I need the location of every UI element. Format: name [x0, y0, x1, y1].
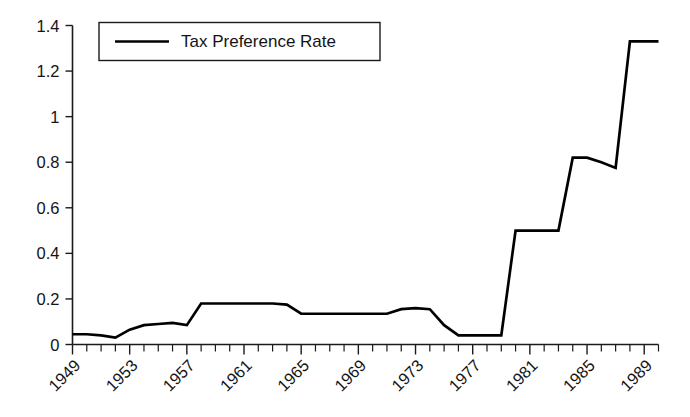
x-tick-label: 1981 — [502, 356, 541, 395]
y-tick-label: 0 — [50, 336, 59, 354]
data-series-group — [73, 41, 659, 337]
x-tick-label: 1965 — [274, 356, 313, 395]
y-tick-label: 0.6 — [37, 199, 60, 217]
chart-legend: Tax Preference Rate — [99, 23, 380, 61]
y-tick-label: 1.4 — [37, 17, 60, 35]
x-axis: 1949195319571961196519691973197719811985… — [45, 345, 659, 395]
chart-container: 00.20.40.60.811.21.4 1949195319571961196… — [0, 0, 690, 417]
legend-label: Tax Preference Rate — [181, 32, 336, 51]
x-tick-label: 1953 — [102, 356, 141, 395]
y-tick-label: 0.4 — [37, 244, 60, 262]
x-tick-label: 1961 — [216, 356, 255, 395]
series-line-tax-preference-rate — [73, 41, 659, 337]
x-tick-label: 1949 — [45, 356, 84, 395]
x-tick-label: 1977 — [445, 356, 484, 395]
line-chart: 00.20.40.60.811.21.4 1949195319571961196… — [0, 0, 690, 417]
x-tick-label: 1973 — [388, 356, 427, 395]
x-tick-label: 1957 — [159, 356, 198, 395]
y-axis: 00.20.40.60.811.21.4 — [37, 17, 73, 354]
x-tick-label: 1989 — [617, 356, 656, 395]
x-tick-label: 1969 — [331, 356, 370, 395]
x-tick-label: 1985 — [559, 356, 598, 395]
y-tick-label: 1.2 — [37, 62, 60, 80]
y-tick-label: 0.8 — [37, 153, 60, 171]
y-tick-label: 0.2 — [37, 290, 60, 308]
y-tick-label: 1 — [50, 108, 59, 126]
